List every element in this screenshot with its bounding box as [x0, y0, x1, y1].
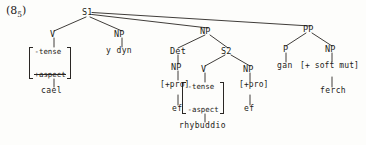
node-v-main: V	[50, 30, 55, 39]
terminal-preposition: gan	[277, 62, 293, 70]
node-s2: S2	[221, 47, 232, 56]
terminal-embedded-verb: rhybuddio	[179, 122, 226, 130]
feature-soft-mutation: [+ soft mut]	[300, 62, 359, 70]
node-np-det-daughter: NP	[171, 63, 182, 72]
terminal-embedded-object: ef	[244, 105, 254, 113]
node-det: Det	[170, 47, 186, 56]
node-s1: S1	[82, 8, 93, 17]
node-np-pp-complement: NP	[325, 45, 336, 54]
terminal-pp-noun: ferch	[320, 87, 346, 95]
feature-pro-embedded: [+pro]	[239, 81, 269, 89]
feature-aspect-main: +aspect	[35, 71, 66, 78]
terminal-subject: y dyn	[106, 47, 132, 55]
feature-pro-det: [+pro]	[160, 81, 190, 89]
node-pp: PP	[303, 25, 314, 34]
feature-tense-embedded: -tense	[188, 83, 219, 90]
node-np-object: NP	[200, 27, 211, 36]
node-np-embedded-object: NP	[243, 65, 254, 74]
node-p: P	[283, 45, 288, 54]
node-np-subject: NP	[114, 30, 125, 39]
feature-aspect-embedded: -aspect	[188, 106, 219, 113]
bracket-right	[220, 82, 224, 114]
terminal-main-verb: cael	[41, 87, 62, 95]
feature-matrix-main-verb: -tense +aspect	[29, 47, 71, 79]
terminal-det-pronoun: ef	[172, 105, 182, 113]
example-number: (85)	[6, 5, 26, 19]
feature-tense-main: -tense	[35, 48, 66, 55]
node-v-embedded: V	[201, 65, 206, 74]
bracket-right	[67, 47, 71, 79]
